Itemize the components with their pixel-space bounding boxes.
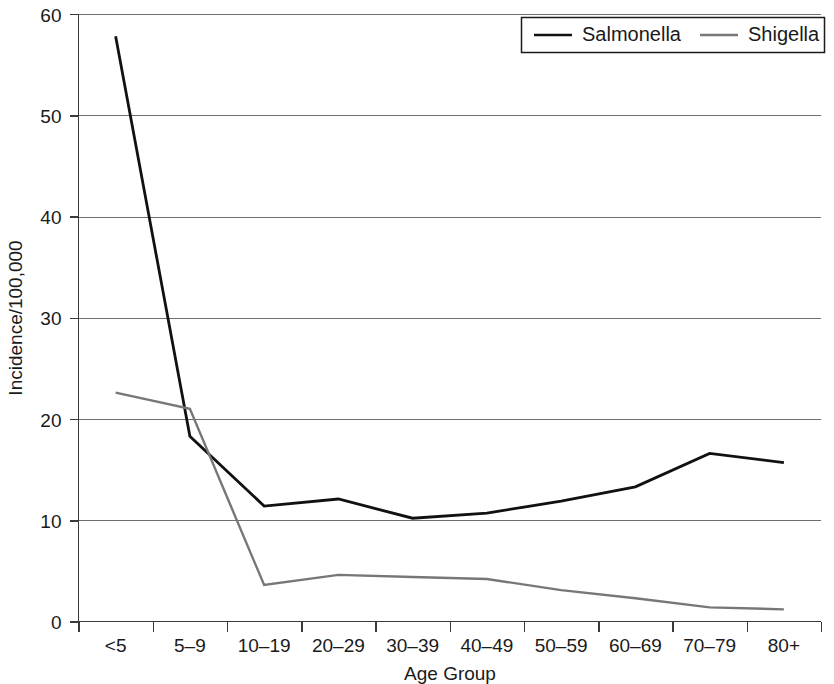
x-tick-label-6: 50–59 [535, 635, 588, 656]
x-tick-label-9: 80+ [768, 635, 800, 656]
series-line-shigella [116, 393, 784, 610]
x-tick-label-1: 5–9 [174, 635, 206, 656]
y-tick-label-60: 60 [40, 5, 61, 26]
legend: Salmonella Shigella [522, 18, 825, 53]
x-tick-label-4: 30–39 [386, 635, 439, 656]
legend-label-shigella: Shigella [748, 23, 820, 45]
x-axis-ticks-group [79, 622, 822, 632]
y-tick-label-10: 10 [40, 511, 61, 532]
data-series-group [116, 36, 784, 609]
x-tick-label-5: 40–49 [460, 635, 513, 656]
y-axis-ticks-group [70, 15, 79, 623]
gridlines-group [79, 15, 822, 521]
chart-container: 0102030405060 <55–910–1920–2930–3940–495… [0, 0, 834, 684]
incidence-by-age-line-chart: 0102030405060 <55–910–1920–2930–3940–495… [0, 0, 834, 684]
y-axis-title: Incidence/100,000 [5, 240, 26, 395]
y-tick-label-30: 30 [40, 308, 61, 329]
y-tick-label-20: 20 [40, 410, 61, 431]
x-axis-title: Age Group [404, 663, 496, 684]
legend-label-salmonella: Salmonella [582, 23, 682, 45]
y-tick-label-40: 40 [40, 207, 61, 228]
x-tick-label-2: 10–19 [238, 635, 291, 656]
x-tick-label-7: 60–69 [609, 635, 662, 656]
series-line-salmonella [116, 36, 784, 518]
x-tick-label-3: 20–29 [312, 635, 365, 656]
x-tick-label-8: 70–79 [683, 635, 736, 656]
x-axis-tick-labels-group: <55–910–1920–2930–3940–4950–5960–6970–79… [105, 635, 800, 656]
y-tick-label-50: 50 [40, 106, 61, 127]
y-axis-tick-labels-group: 0102030405060 [40, 5, 61, 634]
y-tick-label-0: 0 [51, 612, 62, 633]
x-tick-label-0: <5 [105, 635, 127, 656]
